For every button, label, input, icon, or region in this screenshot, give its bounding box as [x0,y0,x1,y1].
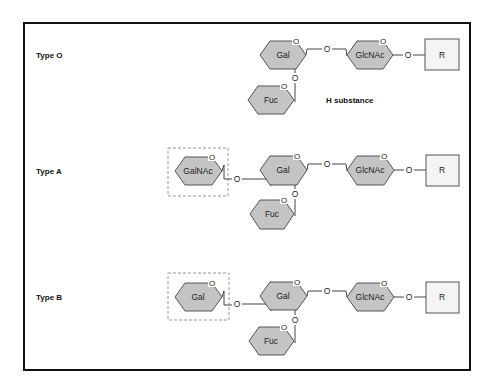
ring-oxygen: O [380,37,386,46]
sugar-label: Fuc [264,336,279,346]
ring-oxygen: O [381,279,387,288]
sugar-label: GlcNAc [356,292,386,302]
link-oxygen: O [234,299,241,309]
sugar-label: GlcNAc [356,50,386,60]
row-label-type-a: Type A [36,167,62,176]
sugar-label: Gal [276,291,289,301]
sugar-label: GlcNAc [356,165,386,175]
link-oxygen: O [324,286,331,296]
link-oxygen: O [292,189,299,199]
row-label-type-o: Type O [36,51,63,60]
h-substance-caption: H substance [326,96,374,105]
sugar-label: Fuc [265,209,280,219]
link-oxygen: O [234,174,241,184]
sugar-label: Gal [276,165,289,175]
ring-oxygen: O [281,196,287,205]
row-label-type-b: Type B [36,293,62,302]
aglycone-r: R [426,282,459,313]
r-label: R [439,50,445,60]
ring-oxygen: O [294,278,300,287]
ring-oxygen: O [209,279,215,288]
ring-oxygen: O [281,323,287,332]
abo-antigen-diagram: Type O Gal O O GlcNAc O O [0,0,488,384]
link-oxygen: O [406,292,413,302]
r-label: R [439,165,445,175]
ring-oxygen: O [281,82,287,91]
sugar-label: Gal [191,292,204,302]
sugar-label: Gal [276,50,289,60]
ring-oxygen: O [209,153,215,162]
sugar-label: Fuc [264,95,279,105]
link-oxygen: O [406,165,413,175]
link-oxygen: O [292,73,299,83]
ring-oxygen: O [293,37,299,46]
link-oxygen: O [324,44,331,54]
sugar-label: GalNAc [183,166,213,176]
ring-oxygen: O [294,152,300,161]
r-label: R [439,292,445,302]
aglycone-r: R [426,155,459,186]
ring-oxygen: O [381,152,387,161]
link-oxygen: O [292,315,299,325]
link-oxygen: O [324,159,331,169]
link-oxygen: O [405,50,412,60]
aglycone-r: R [425,39,459,70]
diagram-frame [24,23,470,370]
